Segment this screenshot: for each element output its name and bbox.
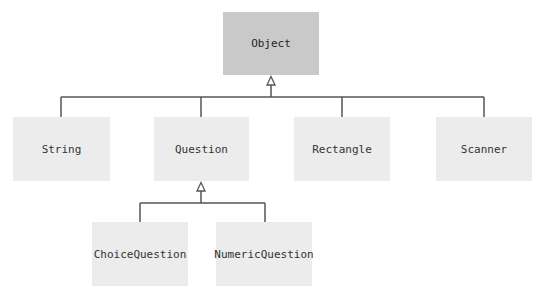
class-node-string: String <box>13 117 110 181</box>
class-label: Rectangle <box>312 143 372 156</box>
inheritance-arrow-icon <box>267 77 275 86</box>
class-node-object: Object <box>223 12 319 75</box>
class-label: NumericQuestion <box>214 248 313 261</box>
class-node-question: Question <box>154 117 249 181</box>
class-label: Object <box>251 37 291 50</box>
class-node-scanner: Scanner <box>436 117 532 181</box>
class-node-numericquestion: NumericQuestion <box>216 222 312 286</box>
class-node-choicequestion: ChoiceQuestion <box>92 222 188 286</box>
inheritance-arrow-icon <box>197 183 205 192</box>
class-label: Question <box>175 143 228 156</box>
class-node-rectangle: Rectangle <box>294 117 390 181</box>
class-hierarchy-diagram: Object String Question Rectangle Scanner… <box>0 0 541 298</box>
class-label: ChoiceQuestion <box>94 248 187 261</box>
class-label: String <box>42 143 82 156</box>
class-label: Scanner <box>461 143 507 156</box>
